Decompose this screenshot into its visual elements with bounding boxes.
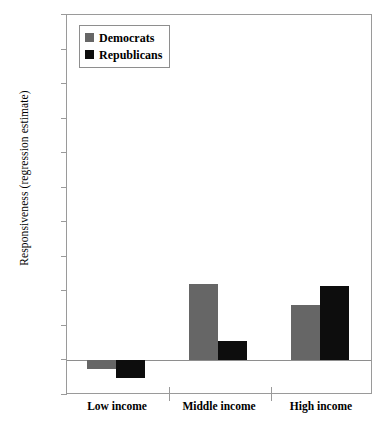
chart-legend: Democrats Republicans: [79, 25, 170, 68]
legend-label-republicans: Republicans: [99, 49, 162, 61]
y-tick-mark: [61, 394, 67, 395]
bar-chart: Responsiveness (regression estimate) 201…: [0, 0, 384, 434]
bar-middle-income-republicans: [218, 341, 247, 360]
bar-high-income-democrats: [291, 305, 320, 360]
plot-area: [66, 14, 372, 394]
legend-swatch-republicans: [85, 50, 94, 59]
bar-low-income-republicans: [116, 360, 145, 377]
y-axis-ticks: 20181614121086420-2: [0, 0, 66, 434]
legend-label-democrats: Democrats: [99, 32, 154, 44]
bar-low-income-democrats: [87, 360, 116, 369]
legend-swatch-democrats: [85, 33, 94, 42]
x-axis-label-middle-income: Middle income: [168, 400, 270, 412]
x-axis-label-low-income: Low income: [66, 400, 168, 412]
legend-item-republicans: Republicans: [85, 46, 162, 63]
x-axis-group-separator: [271, 387, 272, 401]
bar-high-income-republicans: [320, 286, 349, 360]
x-axis-group-separator: [169, 387, 170, 401]
x-axis-label-high-income: High income: [270, 400, 372, 412]
bar-middle-income-democrats: [189, 284, 218, 360]
legend-item-democrats: Democrats: [85, 29, 162, 46]
